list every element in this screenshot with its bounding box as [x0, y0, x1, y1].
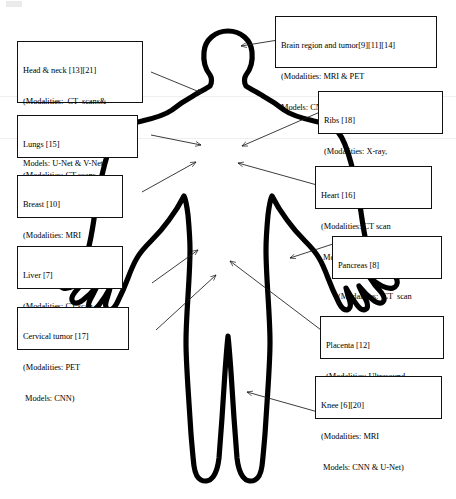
arrow-lungs — [151, 135, 201, 145]
annotation-line: (Modalities: MRI — [321, 432, 437, 442]
arrow-breast — [142, 162, 196, 192]
annotation-line: (Modalities: X-ray, — [324, 147, 438, 157]
annotation-line: (Modalities: PET — [23, 363, 124, 373]
annotation-box-placenta[interactable]: Placenta [12] (Modalities: Ultrasound Mo… — [320, 316, 444, 359]
annotation-line: Liver [7] — [23, 271, 118, 281]
annotation-line: Heart [16] — [321, 191, 427, 201]
annotation-line: Knee [6][20] — [321, 401, 437, 411]
figure-canvas: Head & neck [13][21] (Modalities: CT sca… — [0, 0, 456, 499]
annotation-line: (Modalities: MRI & PET — [281, 72, 432, 82]
annotation-box-pancreas[interactable]: Pancreas [8] (Modalities: CT scan Models… — [332, 236, 442, 279]
arrow-knee — [247, 392, 318, 412]
annotation-line: (Modalities: MRI — [23, 231, 118, 241]
annotation-box-liver[interactable]: Liver [7] (Modalities: CT scan Models: C… — [17, 246, 123, 289]
annotation-box-ribs[interactable]: Ribs [18] (Modalities: X-ray, Models:Mas… — [318, 91, 443, 134]
arrow-heart — [238, 163, 317, 185]
annotation-line: Ribs [18] — [324, 116, 438, 126]
annotation-box-lungs[interactable]: Lungs [15] (Modalities: CT scans Models:… — [17, 115, 138, 158]
annotation-line: Models: CNN) — [23, 394, 124, 404]
annotation-box-cervical-tumor[interactable]: Cervical tumor [17] (Modalities: PET Mod… — [17, 307, 129, 350]
annotation-line: Pancreas [8] — [338, 261, 437, 271]
annotation-line: Cervical tumor [17] — [23, 332, 124, 342]
annotation-line: (Modalities: CT scan — [338, 292, 437, 302]
annotation-line: Brain region and tumor[9][11][14] — [281, 41, 432, 51]
annotation-line: Lungs [15] — [23, 140, 133, 150]
annotation-line: (Modalities: CT scans& — [23, 97, 138, 107]
annotation-box-knee[interactable]: Knee [6][20] (Modalities: MRI Models: CN… — [315, 376, 442, 419]
annotation-line: Head & neck [13][21] — [23, 66, 138, 76]
annotation-line: Breast [10] — [23, 200, 118, 210]
annotation-line: Placenta [12] — [326, 341, 439, 351]
annotation-box-head-neck[interactable]: Head & neck [13][21] (Modalities: CT sca… — [17, 41, 143, 103]
annotation-box-breast[interactable]: Breast [10] (Modalities: MRI Models: U-N… — [17, 175, 123, 218]
arrow-head-neck — [151, 72, 202, 93]
annotation-line: (Modalities: CT scan — [321, 222, 427, 232]
annotation-line: Models: CNN & U-Net) — [321, 463, 437, 473]
annotation-box-brain[interactable]: Brain region and tumor[9][11][14] (Modal… — [275, 16, 437, 68]
arrow-placenta — [230, 261, 325, 333]
annotation-box-heart[interactable]: Heart [16] (Modalities: CT scan Models:U… — [315, 166, 432, 209]
